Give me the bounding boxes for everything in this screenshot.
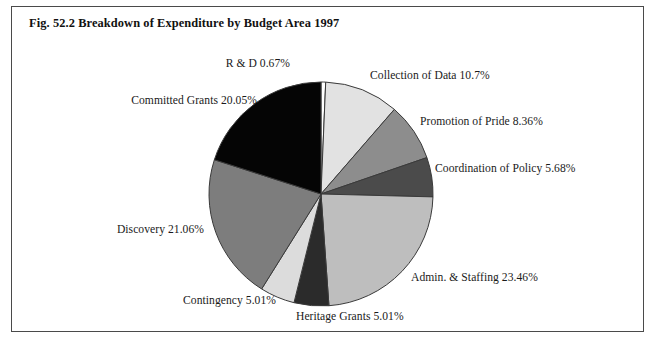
pie-slice-label: Committed Grants 20.05%: [12, 94, 257, 107]
pie-chart: R & D 0.67%Collection of Data 10.7%Promo…: [12, 7, 645, 333]
pie-slice-label: Admin. & Staffing 23.46%: [411, 271, 538, 284]
pie-slice-label: R & D 0.67%: [12, 57, 290, 70]
pie-slice-label: Collection of Data 10.7%: [370, 69, 490, 82]
figure-frame: Fig. 52.2 Breakdown of Expenditure by Bu…: [11, 6, 644, 332]
pie-slice-label: Promotion of Pride 8.36%: [420, 115, 543, 128]
pie-slice-label: Heritage Grants 5.01%: [296, 310, 404, 323]
pie-slice[interactable]: [321, 194, 433, 306]
pie-slice-label: Discovery 21.06%: [12, 223, 204, 236]
pie-slice-label: Contingency 5.01%: [12, 294, 276, 307]
pie-slice-label: Coordination of Policy 5.68%: [435, 162, 576, 175]
